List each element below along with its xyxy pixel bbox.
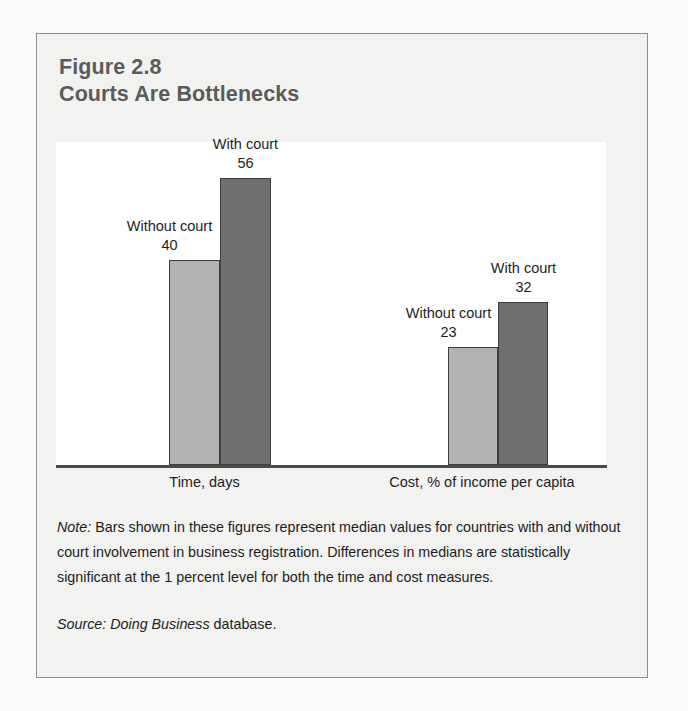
bar-time-without-court[interactable] (169, 260, 220, 465)
category-label-cost: Cost, % of income per capita (347, 474, 617, 490)
note-body-text: Bars shown in these figures represent me… (57, 519, 620, 585)
category-label-time: Time, days (122, 474, 287, 490)
chart-plot-panel: Without court 40 With court 56 Without c… (56, 142, 606, 465)
annotation-time-with-court: With court 56 (181, 135, 310, 173)
figure-heading: Figure 2.8 Courts Are Bottlenecks (59, 54, 599, 108)
figure-page: Figure 2.8 Courts Are Bottlenecks Withou… (0, 0, 688, 711)
annotation-value: 40 (105, 236, 234, 255)
annotation-cost-without-court: Without court 23 (384, 304, 513, 342)
note-text: Note: Bars shown in these figures repres… (57, 515, 629, 590)
annotation-value: 56 (181, 154, 310, 173)
source-lead-label: Source: Doing Business (57, 616, 210, 632)
figure-notes: Note: Bars shown in these figures repres… (57, 515, 629, 637)
annotation-value: 32 (459, 278, 588, 297)
annotation-label: With court (181, 135, 310, 154)
x-axis-line (56, 465, 607, 468)
bar-cost-without-court[interactable] (448, 347, 498, 465)
source-body-text: database. (210, 616, 277, 632)
figure-card: Figure 2.8 Courts Are Bottlenecks Withou… (36, 33, 648, 678)
annotation-label: Without court (384, 304, 513, 323)
figure-number: Figure 2.8 (59, 54, 599, 81)
plot-area: Without court 40 With court 56 Without c… (56, 142, 606, 465)
annotation-value: 23 (384, 323, 513, 342)
note-lead-label: Note: (57, 519, 91, 535)
source-text: Source: Doing Business database. (57, 612, 629, 637)
figure-title: Courts Are Bottlenecks (59, 81, 599, 108)
annotation-label: With court (459, 259, 588, 278)
annotation-time-without-court: Without court 40 (105, 217, 234, 255)
annotation-label: Without court (105, 217, 234, 236)
annotation-cost-with-court: With court 32 (459, 259, 588, 297)
